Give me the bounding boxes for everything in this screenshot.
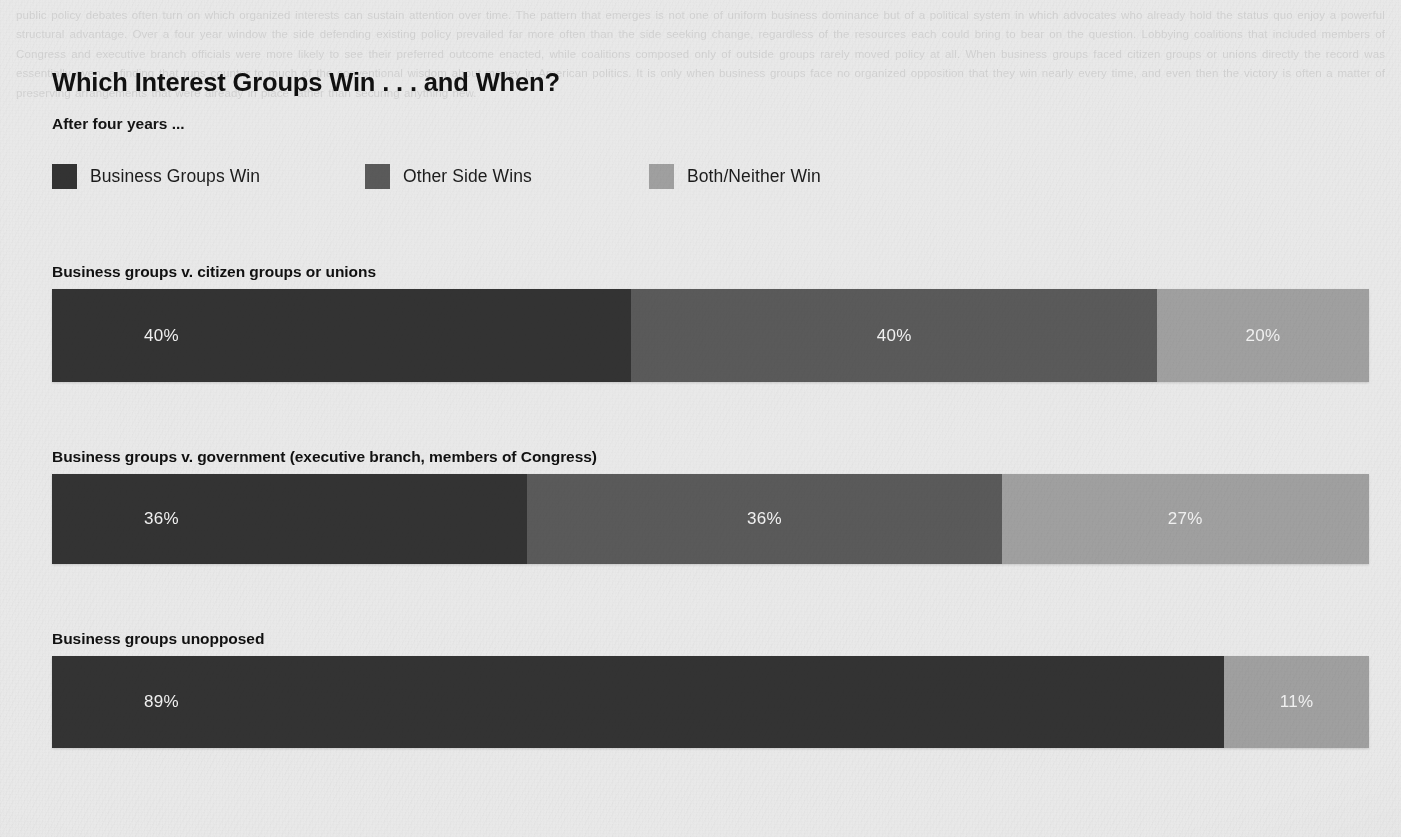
bar-segment: 27%	[1002, 474, 1369, 564]
chart-container: Which Interest Groups Win . . . and When…	[0, 0, 1401, 837]
chart-title: Which Interest Groups Win . . . and When…	[52, 68, 560, 97]
legend-item-label: Business Groups Win	[90, 166, 260, 187]
bar-segment-value: 11%	[1280, 692, 1314, 712]
bar-segment: 89%	[52, 656, 1224, 748]
bar-track: 36%36%27%	[52, 474, 1369, 564]
legend-swatch-icon	[365, 164, 390, 189]
legend-item: Other Side Wins	[365, 162, 532, 190]
bar-group: Business groups v. government (executive…	[52, 448, 1369, 564]
legend-swatch-icon	[52, 164, 77, 189]
bar-segment: 40%	[631, 289, 1156, 382]
bar-segment: 11%	[1224, 656, 1369, 748]
bar-track: 89%11%	[52, 656, 1369, 748]
bar-segment: 36%	[527, 474, 1001, 564]
bar-segment: 20%	[1157, 289, 1369, 382]
bar-segment-value: 27%	[1168, 509, 1203, 529]
bar-group-label: Business groups v. citizen groups or uni…	[52, 263, 1369, 281]
bar-group-label: Business groups unopposed	[52, 630, 1369, 648]
bar-segment-value: 36%	[747, 509, 782, 529]
bar-segment: 36%	[52, 474, 527, 564]
bar-group: Business groups v. citizen groups or uni…	[52, 263, 1369, 382]
bar-segment-value: 89%	[144, 692, 179, 712]
bar-segment-value: 20%	[1245, 326, 1280, 346]
bar-group: Business groups unopposed89%11%	[52, 630, 1369, 748]
bar-segment-value: 36%	[144, 509, 179, 529]
bar-segment-value: 40%	[877, 326, 912, 346]
bar-segment-value: 40%	[144, 326, 179, 346]
legend-item: Business Groups Win	[52, 162, 260, 190]
legend-item: Both/Neither Win	[649, 162, 821, 190]
bar-track: 40%40%20%	[52, 289, 1369, 382]
legend-swatch-icon	[649, 164, 674, 189]
chart-subtitle: After four years ...	[52, 115, 185, 133]
legend-item-label: Both/Neither Win	[687, 166, 821, 187]
bar-group-label: Business groups v. government (executive…	[52, 448, 1369, 466]
bar-segment: 40%	[52, 289, 631, 382]
legend-item-label: Other Side Wins	[403, 166, 532, 187]
